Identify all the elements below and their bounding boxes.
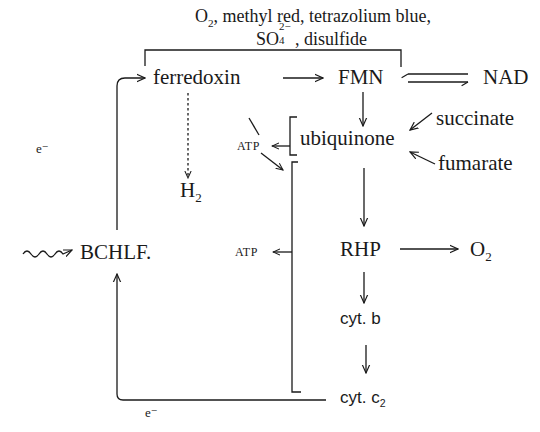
node-cyt-c2: cyt. c2: [340, 389, 386, 409]
o2-node-subscript: 2: [485, 249, 492, 264]
node-h2: H2: [180, 180, 202, 204]
inhibitor-list-text: , methyl red, tetrazolium blue,: [214, 6, 431, 26]
electron-label-left: e⁻: [36, 142, 49, 155]
node-bchlf: BCHLF.: [80, 242, 151, 263]
electron-transport-diagram: O2, methyl red, tetrazolium blue, SO2−4,…: [0, 0, 540, 432]
node-fumarate: fumarate: [438, 153, 513, 174]
node-ferredoxin: ferredoxin: [153, 67, 240, 88]
bracket-lower: [273, 162, 301, 392]
inhibitor-list-line2: SO2−4, disulfide: [256, 27, 367, 48]
node-rhp: RHP: [340, 239, 381, 260]
sulfate-text: SO: [256, 29, 279, 49]
h2-subscript: 2: [195, 190, 202, 205]
sulfate-charge: 2−4: [279, 27, 295, 45]
cyt-c2-subscript: 2: [380, 397, 386, 409]
arrow-bchlf-ferredoxin: [117, 78, 145, 230]
h2-text: H: [180, 178, 195, 202]
diagram-connectors: [0, 0, 540, 432]
node-nad: NAD: [483, 67, 529, 88]
sulfate-subscript: 4: [279, 35, 285, 46]
node-cyt-b: cyt. b: [340, 310, 381, 327]
node-atp-lower: ATP: [235, 246, 258, 258]
line-ferredoxin-atp: [249, 118, 259, 135]
arrow-atp-ubiquinone: [261, 153, 283, 170]
o2-node-text: O: [470, 237, 485, 261]
bracket-upper: [272, 117, 297, 155]
o2-text: O: [195, 6, 208, 26]
arrow-succinate-ubiquinone: [410, 113, 432, 130]
node-fmn: FMN: [338, 67, 384, 88]
cyt-c2-text: cyt. c: [340, 388, 380, 407]
disulfide-text: , disulfide: [295, 29, 367, 49]
arrow-fumarate-ubiquinone: [410, 152, 435, 164]
node-ubiquinone: ubiquinone: [300, 128, 395, 149]
node-succinate: succinate: [436, 108, 514, 129]
sulfate-superscript: 2−: [279, 21, 291, 32]
light-wavy-arrow: [23, 250, 72, 257]
node-o2: O2: [470, 239, 492, 263]
inhibitor-list-line1: O2, methyl red, tetrazolium blue,: [195, 7, 431, 29]
node-atp-upper: ATP: [237, 140, 260, 152]
electron-label-bottom: e⁻: [145, 406, 158, 419]
arrow-cytc2-bchlf: [117, 274, 326, 400]
